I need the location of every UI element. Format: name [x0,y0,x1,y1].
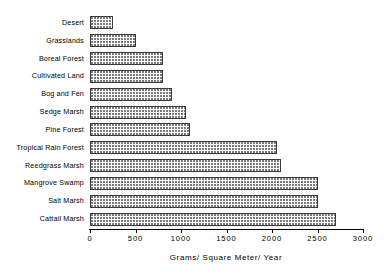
category-label: Sedge Marsh [0,108,84,116]
bar [90,177,318,190]
x-axis-tick [90,229,91,233]
x-axis-tick [318,229,319,233]
x-axis-tick-label: 2500 [307,234,328,243]
bar [90,195,318,208]
x-axis-tick [136,229,137,233]
bar [90,141,277,154]
category-label: Bog and Fen [0,90,84,98]
x-axis-tick [181,229,182,233]
category-label: Grasslands [0,37,84,45]
bar [90,159,281,172]
category-label: Desert [0,19,84,27]
bar [90,88,172,101]
category-label: Cultivated Land [0,72,84,80]
x-axis-tick-label: 2000 [262,234,283,243]
plot-area [90,14,363,228]
bar [90,123,190,136]
category-label: Reedgrass Marsh [0,162,84,170]
x-axis-title-text: Grams/ Square Meter/ Year [108,253,282,262]
bar [90,16,113,29]
category-label: Cattail Marsh [0,215,84,223]
category-label: Boreal Forest [0,55,84,63]
x-axis-tick-label: 1500 [216,234,237,243]
x-axis-tick [363,229,364,233]
x-axis-tick-label: 500 [128,234,143,243]
category-label: Salt Marsh [0,197,84,205]
x-axis-tick-label: 3000 [353,234,374,243]
x-axis-tick-label: 1000 [171,234,192,243]
category-axis-labels: DesertGrasslandsBoreal ForestCultivated … [0,14,84,228]
category-label: Tropical Rain Forest [0,144,84,152]
x-axis-tick [272,229,273,233]
category-label: Pine Forest [0,126,84,134]
bar [90,70,163,83]
bar [90,213,336,226]
bar [90,52,163,65]
category-label: Mangrove Swamp [0,179,84,187]
x-axis-title: Grams/ Square Meter/ Year [0,253,390,262]
x-axis-tick-label: 0 [87,234,92,243]
bar-chart: DesertGrasslandsBoreal ForestCultivated … [0,0,390,279]
x-axis-tick [227,229,228,233]
bar [90,34,136,47]
bar [90,106,186,119]
